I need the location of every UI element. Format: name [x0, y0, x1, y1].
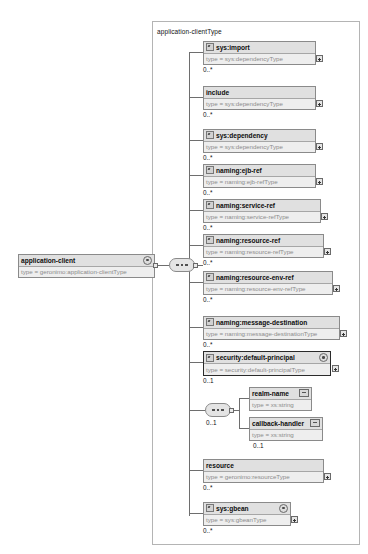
element-name: security:default-principal — [216, 354, 295, 361]
expand-plus-icon[interactable] — [324, 473, 331, 480]
root-element-connector-stub[interactable] — [153, 263, 158, 268]
expand-plus-icon[interactable] — [324, 248, 331, 255]
element-name: naming:service-ref — [216, 202, 275, 209]
cardinality-label: 0..1 — [203, 377, 214, 384]
cardinality-label: 0..* — [203, 66, 213, 73]
element-node-naming-ejb-ref[interactable]: naming:ejb-ref type = naming:ejb-refType — [203, 164, 316, 188]
element-name: realm-name — [252, 390, 289, 397]
element-type: type = security:default-principalType — [204, 364, 330, 375]
element-attribute-icon — [206, 43, 214, 51]
element-attribute-icon — [206, 166, 214, 174]
element-attribute-icon — [206, 201, 214, 209]
element-type: type = geronimo:resourceType — [204, 472, 323, 483]
schema-diagram-canvas: application-clientType application-clien… — [0, 0, 368, 554]
element-type: type = sys:dependencyType — [204, 142, 315, 153]
element-name: naming:resource-ref — [216, 237, 280, 244]
element-name: sys:dependency — [216, 132, 268, 139]
element-node-resource[interactable]: resource type = geronimo:resourceType — [203, 459, 324, 483]
element-name: naming:resource-env-ref — [216, 274, 294, 281]
element-type: type = xs:string — [250, 400, 311, 411]
abstract-circle-icon — [319, 353, 328, 362]
element-type: type = xs:string — [250, 430, 322, 441]
expand-plus-icon[interactable] — [333, 285, 340, 292]
abstract-circle-icon — [279, 504, 288, 513]
compositor-dot — [181, 264, 184, 267]
element-name: naming:message-destination — [216, 319, 307, 326]
element-title: sys:dependency — [204, 130, 315, 142]
element-type: type = sys:gbeanType — [204, 515, 290, 526]
element-node-sys-gbean[interactable]: sys:gbean type = sys:gbeanType — [203, 502, 291, 526]
root-element-title: application-client — [19, 255, 154, 267]
element-attribute-icon — [206, 354, 214, 362]
element-node-callback-handler[interactable]: callback-handler type = xs:string — [249, 417, 323, 441]
element-node-realm-name[interactable]: realm-name type = xs:string — [249, 387, 312, 411]
element-title: callback-handler — [250, 418, 322, 430]
element-attribute-icon — [206, 273, 214, 281]
element-node-naming-service-ref[interactable]: naming:service-ref type = naming:service… — [203, 199, 321, 223]
compositor-dot — [212, 409, 215, 412]
compositor-dot — [176, 264, 179, 267]
root-element-application-client[interactable]: application-client type = geronimo:appli… — [18, 254, 155, 278]
element-type: type = naming:ejb-refType — [204, 177, 315, 188]
cardinality-label: 0..* — [203, 154, 213, 161]
element-name: resource — [206, 462, 234, 469]
element-title: realm-name — [250, 388, 311, 400]
element-attribute-icon — [206, 318, 214, 326]
choice-compositor-stub[interactable] — [229, 408, 234, 413]
cardinality-label: 0..* — [203, 484, 213, 491]
element-node-naming-resource-env-ref[interactable]: naming:resource-env-ref type = naming:re… — [203, 271, 333, 295]
choice-compositor-inner[interactable] — [205, 403, 231, 417]
element-type: type = sys:dependencyType — [204, 54, 315, 65]
element-title: naming:ejb-ref — [204, 165, 315, 177]
expand-plus-icon[interactable] — [340, 330, 347, 337]
cardinality-label: 0..1 — [253, 442, 264, 449]
element-name: sys:import — [216, 44, 250, 51]
element-attribute-icon — [206, 504, 214, 512]
element-type: type = naming:message-destinationType — [204, 329, 339, 340]
cardinality-label: 0..* — [203, 224, 213, 231]
element-title: include — [204, 87, 315, 99]
cardinality-label: 0..1 — [206, 419, 217, 426]
element-name: naming:ejb-ref — [216, 167, 262, 174]
cardinality-label: 0..* — [203, 527, 213, 534]
element-type: type = naming:resource-env-refType — [204, 284, 332, 295]
element-node-naming-resource-ref[interactable]: naming:resource-ref type = naming:resour… — [203, 234, 324, 258]
abstract-circle-icon — [143, 256, 152, 265]
element-type: type = naming:service-refType — [204, 212, 320, 223]
simple-type-icon — [299, 389, 309, 397]
element-node-security-default-principal[interactable]: security:default-principal type = securi… — [203, 351, 331, 376]
element-node-sys-dependency[interactable]: sys:dependency type = sys:dependencyType — [203, 129, 316, 153]
expand-plus-icon[interactable] — [316, 55, 323, 62]
expand-plus-icon[interactable] — [332, 365, 339, 372]
cardinality-label: 0..* — [203, 259, 213, 266]
element-name: include — [206, 89, 229, 96]
cardinality-label: 0..* — [203, 341, 213, 348]
element-node-sys-import[interactable]: sys:import type = sys:dependencyType — [203, 41, 316, 65]
element-node-naming-message-destination[interactable]: naming:message-destination type = naming… — [203, 316, 340, 340]
expand-plus-icon[interactable] — [316, 178, 323, 185]
element-node-include[interactable]: include type = sys:dependencyType — [203, 86, 316, 110]
element-title: naming:service-ref — [204, 200, 320, 212]
expand-plus-icon[interactable] — [321, 213, 328, 220]
expand-plus-icon[interactable] — [316, 143, 323, 150]
compositor-dot — [185, 264, 188, 267]
cardinality-label: 0..* — [203, 296, 213, 303]
element-title: sys:import — [204, 42, 315, 54]
cardinality-label: 0..* — [203, 111, 213, 118]
expand-plus-icon[interactable] — [316, 100, 323, 107]
element-type: type = sys:dependencyType — [204, 99, 315, 110]
element-title: security:default-principal — [204, 352, 330, 364]
element-title: naming:resource-ref — [204, 235, 323, 247]
sequence-compositor-root[interactable] — [169, 258, 195, 272]
sequence-compositor-stub[interactable] — [193, 263, 198, 268]
element-type: type = naming:resource-refType — [204, 247, 323, 258]
expand-plus-icon[interactable] — [291, 516, 298, 523]
group-container-label: application-clientType — [157, 28, 222, 35]
element-attribute-icon — [206, 131, 214, 139]
element-title: naming:message-destination — [204, 317, 339, 329]
element-title: resource — [204, 460, 323, 472]
compositor-dot — [221, 409, 224, 412]
root-element-name: application-client — [21, 257, 75, 264]
element-title: naming:resource-env-ref — [204, 272, 332, 284]
element-attribute-icon — [206, 236, 214, 244]
